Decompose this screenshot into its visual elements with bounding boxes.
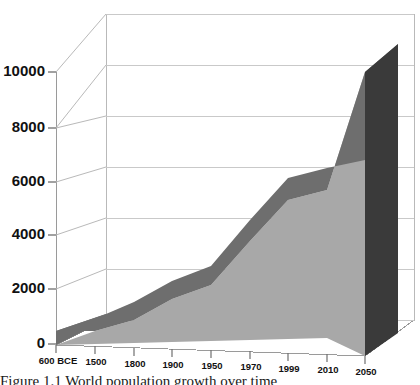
x-tick-label: 1500	[85, 356, 106, 367]
y-tick-label: 10000	[3, 62, 45, 79]
area-side-face	[365, 44, 398, 356]
depth-connector-8000-upper	[56, 65, 106, 128]
area-front-face	[56, 72, 365, 356]
y-tick-label: 8000	[12, 118, 45, 135]
y-tick-label: 2000	[12, 279, 45, 296]
depth-connector-2000	[56, 269, 106, 289]
y-axis-ticks	[48, 72, 56, 344]
y-tick-label: 4000	[12, 225, 45, 242]
area-series-world-population	[56, 44, 398, 356]
y-tick-label: 0	[37, 334, 45, 351]
y-tick-label: 6000	[12, 172, 45, 189]
depth-connectors	[56, 14, 106, 289]
depth-connector-6000	[56, 167, 106, 182]
x-tick-label: 1950	[201, 360, 222, 371]
y-axis-labels: 10000 8000 6000 4000 2000 0	[3, 62, 45, 351]
x-tick-label: 1800	[124, 358, 145, 369]
x-tick-label: 1970	[240, 361, 261, 372]
figure-caption: Figure 1.1 World population growth over …	[0, 374, 420, 385]
x-tick-label: 1999	[278, 363, 299, 374]
area-chart-3d: 10000 8000 6000 4000 2000 0	[0, 0, 420, 385]
x-tick-label: 1900	[162, 359, 183, 370]
depth-connector-4000	[56, 218, 106, 235]
depth-connector-10000	[56, 14, 106, 72]
figure-container: 10000 8000 6000 4000 2000 0	[0, 0, 420, 385]
x-tick-label: 600 BCE	[39, 355, 78, 366]
